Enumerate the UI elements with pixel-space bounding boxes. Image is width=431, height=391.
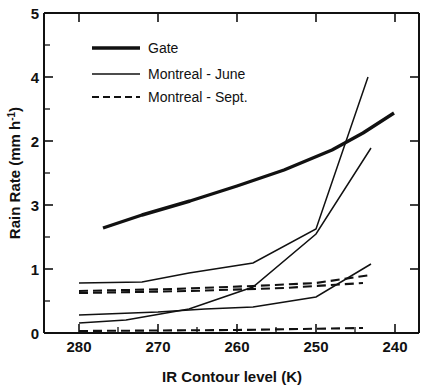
chart-legend: Gate Montreal - June Montreal - Sept. xyxy=(92,40,248,105)
x-tick-label-250: 250 xyxy=(303,338,328,355)
y-tick-label-4: 4 xyxy=(31,69,40,86)
top-axis-ticks xyxy=(79,13,395,22)
y-tick-label-0: 0 xyxy=(31,325,39,342)
plot-axes xyxy=(44,13,419,333)
y-axis-title-tail: ) xyxy=(6,107,23,112)
legend-label-montreal-sept: Montreal - Sept. xyxy=(148,89,248,105)
right-axis-ticks xyxy=(410,13,419,333)
series-line-montreal-june-lower-steep xyxy=(79,148,371,323)
y-tick-label-1: 1 xyxy=(31,261,39,278)
y-axis-title: Rain Rate (mm h-1) xyxy=(6,107,23,239)
x-tick-label-270: 270 xyxy=(145,338,170,355)
series-line-montreal-sept-baseline xyxy=(79,328,363,331)
y-tick-label-5: 5 xyxy=(31,5,39,22)
x-tick-label-240: 240 xyxy=(382,338,407,355)
rain-rate-line-chart: 5 4 3 2 1 0 280 270 260 250 240 IR Conto… xyxy=(0,0,431,391)
y-tick-label-3: 3 xyxy=(31,197,39,214)
y-tick-label-2: 2 xyxy=(31,133,39,150)
x-tick-label-260: 260 xyxy=(224,338,249,355)
svg-text:Rain Rate (mm h-1): Rain Rate (mm h-1) xyxy=(6,107,23,239)
legend-label-montreal-june: Montreal - June xyxy=(148,66,245,82)
x-tick-label-280: 280 xyxy=(66,338,91,355)
chart-figure: 5 4 3 2 1 0 280 270 260 250 240 IR Conto… xyxy=(0,0,431,391)
series-line-montreal-june-upper-steep xyxy=(79,77,368,283)
legend-label-gate: Gate xyxy=(148,40,179,56)
y-axis-title-main: Rain Rate (mm h xyxy=(6,121,23,239)
x-axis-title: IR Contour level (K) xyxy=(162,368,302,385)
